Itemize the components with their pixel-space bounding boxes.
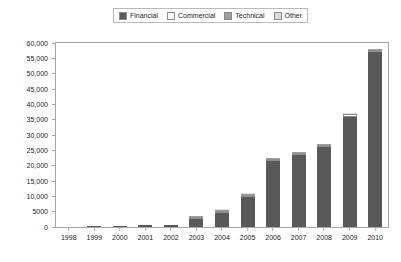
bar-stack[interactable] [189, 216, 203, 227]
x-axis-tick: 2005 [240, 228, 256, 242]
x-axis-tick-label: 1999 [87, 234, 103, 242]
x-axis-tick: 1998 [61, 228, 77, 242]
x-axis-tick: 2001 [138, 228, 154, 242]
bar-group[interactable] [260, 43, 286, 227]
x-axis-tick-mark [94, 228, 95, 231]
y-axis-tick-label: 45,000 [27, 86, 52, 93]
bar-segment-financial[interactable] [368, 52, 382, 227]
legend-swatch-technical [224, 12, 232, 20]
bar-chart: FinancialCommercialTechnicalOther 60,000… [0, 0, 401, 262]
bar-segment-financial[interactable] [292, 155, 306, 227]
x-axis-tick: 2008 [316, 228, 332, 242]
legend-entry-label: Technical [235, 12, 264, 20]
legend-entry-label: Other [285, 12, 303, 20]
x-axis-tick-mark [298, 228, 299, 231]
bar-group[interactable] [158, 43, 184, 227]
bar-stack[interactable] [343, 113, 357, 227]
legend-entry[interactable]: Financial [119, 12, 158, 20]
x-axis-tick-mark [349, 228, 350, 231]
bar-stack[interactable] [266, 158, 280, 227]
y-axis-tick-label: 0 [44, 224, 52, 231]
bar-segment-financial[interactable] [215, 213, 229, 227]
x-axis-tick-label: 2009 [342, 234, 358, 242]
bar-segment-financial[interactable] [189, 219, 203, 227]
legend-swatch-commercial [167, 12, 175, 20]
x-axis-tick: 2009 [342, 228, 358, 242]
bar-segment-financial[interactable] [164, 225, 178, 227]
y-axis-tick-label: 30,000 [27, 132, 52, 139]
bar-segment-financial[interactable] [87, 226, 101, 227]
x-axis-tick-label: 2010 [367, 234, 383, 242]
x-axis-tick-label: 2004 [214, 234, 230, 242]
bar-segment-financial[interactable] [266, 161, 280, 227]
x-axis-tick-mark [221, 228, 222, 231]
x-axis-tick: 2003 [189, 228, 205, 242]
bar-group[interactable] [337, 43, 363, 227]
bar-group[interactable] [286, 43, 312, 227]
bar-segment-financial[interactable] [138, 225, 152, 227]
x-axis-tick: 2010 [367, 228, 383, 242]
x-axis-tick-mark [273, 228, 274, 231]
y-axis-tick-label: 20,000 [27, 162, 52, 169]
y-axis-tick-label: 40,000 [27, 101, 52, 108]
bar-stack[interactable] [164, 225, 178, 227]
x-axis-tick-label: 2000 [112, 234, 128, 242]
x-axis-tick-mark [119, 228, 120, 231]
legend-entry-label: Commercial [178, 12, 215, 20]
bar-stack[interactable] [368, 49, 382, 227]
bar-group[interactable] [311, 43, 337, 227]
bar-stack[interactable] [138, 225, 152, 227]
bar-group[interactable] [133, 43, 159, 227]
bar-stack[interactable] [215, 209, 229, 227]
bar-stack[interactable] [317, 144, 331, 227]
x-axis-tick: 2000 [112, 228, 128, 242]
bar-stack[interactable] [87, 226, 101, 227]
x-axis-tick-label: 2006 [265, 234, 281, 242]
bar-group[interactable] [107, 43, 133, 227]
bar-segment-financial[interactable] [113, 226, 127, 227]
legend-entry[interactable]: Technical [224, 12, 264, 20]
bar-group[interactable] [235, 43, 261, 227]
x-axis-tick-label: 2005 [240, 234, 256, 242]
y-axis-tick-label: 60,000 [27, 40, 52, 47]
legend-entry[interactable]: Other [274, 12, 303, 20]
bar-group[interactable] [184, 43, 210, 227]
x-axis-tick-label: 2001 [138, 234, 154, 242]
y-axis-tick-label: 15,000 [27, 178, 52, 185]
y-axis-tick-label: 55,000 [27, 55, 52, 62]
y-axis-tick-label: 5000 [32, 208, 52, 215]
y-axis-tick-label: 35,000 [27, 116, 52, 123]
x-axis-tick-mark [170, 228, 171, 231]
bar-stack[interactable] [113, 226, 127, 227]
bar-group[interactable] [209, 43, 235, 227]
x-axis-tick-label: 1998 [61, 234, 77, 242]
bar-group[interactable] [56, 43, 82, 227]
bar-group[interactable] [362, 43, 388, 227]
y-axis-tick-label: 10,000 [27, 193, 52, 200]
y-axis-tick-label: 50,000 [27, 70, 52, 77]
x-axis-tick: 2006 [265, 228, 281, 242]
bar-segment-financial[interactable] [343, 117, 357, 227]
chart-legend: FinancialCommercialTechnicalOther [113, 8, 308, 23]
bar-stack[interactable] [241, 193, 255, 227]
bar-group[interactable] [82, 43, 108, 227]
x-axis-tick-mark [145, 228, 146, 231]
legend-swatch-financial [119, 12, 127, 20]
legend-entry-label: Financial [130, 12, 158, 20]
y-axis-tick-label: 25,000 [27, 147, 52, 154]
x-axis-tick-mark [247, 228, 248, 231]
plot-area [56, 43, 388, 227]
legend-entry[interactable]: Commercial [167, 12, 215, 20]
x-axis-tick-mark [68, 228, 69, 231]
bar-segment-financial[interactable] [317, 147, 331, 227]
x-axis-tick-mark [375, 228, 376, 231]
x-axis-tick: 2002 [163, 228, 179, 242]
legend-swatch-other [274, 12, 282, 20]
x-axis-tick: 2004 [214, 228, 230, 242]
x-axis: 1998199920002001200220032004200520062007… [56, 228, 388, 250]
x-axis-tick: 2007 [291, 228, 307, 242]
x-axis-tick-mark [324, 228, 325, 231]
bar-segment-financial[interactable] [241, 197, 255, 227]
y-axis: 60,00055,00050,00045,00040,00035,00030,0… [0, 42, 55, 228]
bar-stack[interactable] [292, 152, 306, 227]
